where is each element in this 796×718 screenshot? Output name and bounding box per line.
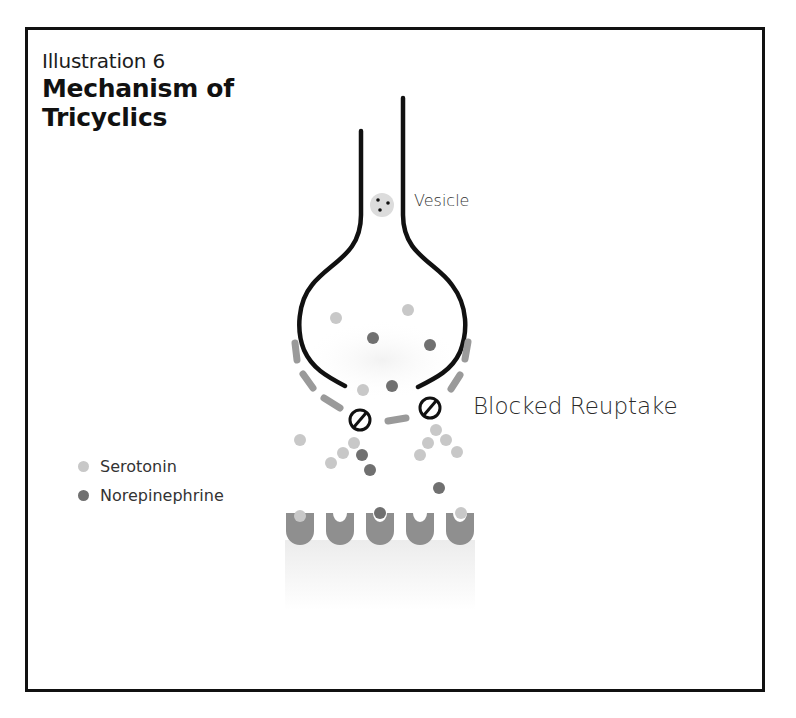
- serotonin-molecule: [402, 304, 414, 316]
- serotonin-molecule: [325, 457, 337, 469]
- norepinephrine-molecule: [424, 339, 436, 351]
- vesicle-body: [370, 193, 394, 217]
- serotonin-molecule: [440, 434, 452, 446]
- serotonin-molecule: [455, 507, 467, 519]
- norepinephrine-molecule: [367, 332, 379, 344]
- vesicle-dot: [378, 208, 382, 212]
- norepinephrine-molecule: [374, 507, 386, 519]
- receptor: [326, 513, 354, 545]
- legend-label: Norepinephrine: [100, 486, 224, 505]
- serotonin-molecule: [414, 449, 426, 461]
- transporter-segment: [465, 342, 468, 359]
- serotonin-molecule: [337, 447, 349, 459]
- legend-item-norepinephrine: Norepinephrine: [78, 481, 224, 510]
- legend-label: Serotonin: [100, 457, 177, 476]
- serotonin-dot-icon: [78, 461, 89, 472]
- norepinephrine-molecule: [433, 482, 445, 494]
- serotonin-molecule: [451, 446, 463, 458]
- postsynaptic-shading: [285, 540, 475, 610]
- norepinephrine-dot-icon: [78, 490, 89, 501]
- vesicle: [370, 193, 394, 217]
- transporter-segment: [324, 398, 340, 408]
- prohibited-slash: [424, 401, 436, 415]
- transporter-segment: [295, 343, 297, 360]
- blocked-reuptake-label: Blocked Reuptake: [473, 393, 678, 419]
- serotonin-molecule: [330, 312, 342, 324]
- vesicle-dot: [376, 198, 380, 202]
- serotonin-molecule: [430, 424, 442, 436]
- norepinephrine-molecule: [356, 449, 368, 461]
- serotonin-molecule: [357, 384, 369, 396]
- serotonin-molecule: [422, 437, 434, 449]
- blocked-symbol-left: [350, 410, 370, 430]
- norepinephrine-molecule: [386, 380, 398, 392]
- vesicle-dot: [386, 201, 390, 205]
- serotonin-molecule: [294, 434, 306, 446]
- serotonin-molecule: [348, 437, 360, 449]
- synapse-diagram: [0, 0, 796, 718]
- transporter-segment: [388, 418, 406, 421]
- norepinephrine-molecule: [364, 464, 376, 476]
- prohibited-slash: [354, 413, 366, 427]
- legend-item-serotonin: Serotonin: [78, 452, 224, 481]
- terminal-shading: [302, 320, 462, 400]
- vesicle-label: Vesicle: [414, 191, 469, 210]
- receptor: [406, 513, 434, 545]
- blocked-symbol-right: [420, 398, 440, 418]
- legend: Serotonin Norepinephrine: [78, 452, 224, 510]
- serotonin-molecule: [294, 510, 306, 522]
